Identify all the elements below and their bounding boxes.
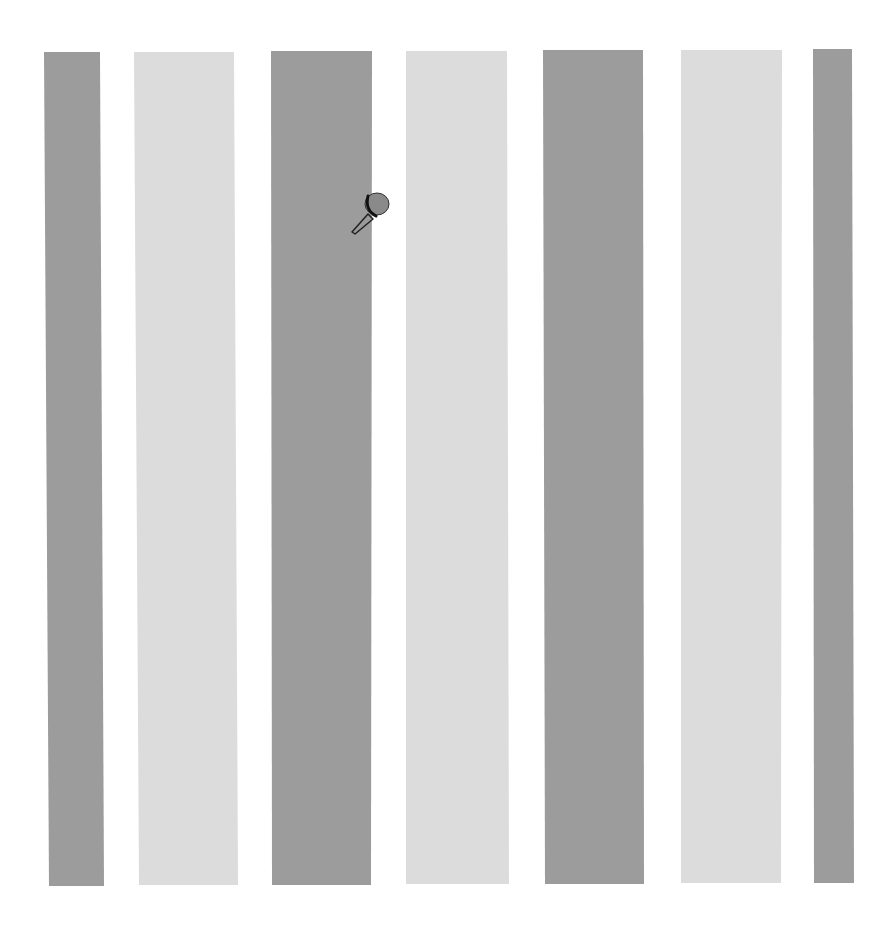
stripe-2-light — [134, 52, 238, 885]
stripe-3-dark — [271, 51, 372, 885]
stripe-4-light — [406, 51, 509, 884]
stripe-1-dark — [44, 52, 104, 886]
pushpin-icon — [346, 188, 394, 238]
stripe-5-dark — [543, 50, 644, 884]
stripe-7-dark — [813, 49, 854, 883]
stripe-6-light — [681, 50, 782, 883]
